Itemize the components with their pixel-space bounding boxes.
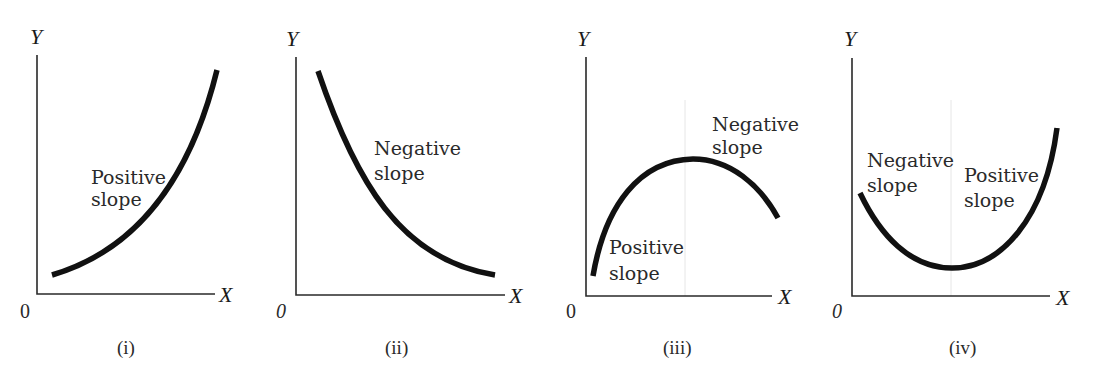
panel-caption: (i) — [117, 337, 135, 359]
annotation-negative-slope-line1: Negative — [867, 149, 954, 171]
annotation-positive-slope-line2: slope — [609, 262, 660, 284]
panel-iii: Y X 0 Negative slope Positive slope (iii… — [566, 26, 799, 359]
origin-label: 0 — [20, 300, 30, 322]
panel-caption: (ii) — [385, 337, 408, 359]
y-axis-label: Y — [286, 26, 301, 51]
annotation-positive-slope-line1: Positive — [964, 164, 1039, 186]
y-axis-label: Y — [844, 26, 859, 51]
origin-label: 0 — [832, 300, 842, 322]
annotation-negative-slope-line1: Negative — [374, 137, 461, 159]
panel-caption: (iii) — [663, 337, 692, 359]
annotation-negative-slope-line2: slope — [867, 174, 918, 196]
panel-iv: Y X 0 Negative slope Positive slope (iv) — [832, 26, 1071, 359]
panel-i: Y X 0 Positive slope (i) — [20, 24, 234, 359]
annotation-negative-slope-line1: Negative — [712, 113, 799, 135]
slope-diagram-figure: Y X 0 Positive slope (i) Y X 0 Negative … — [0, 0, 1104, 383]
x-axis-label: X — [777, 284, 793, 309]
x-axis-label: X — [218, 282, 234, 307]
x-axis-label: X — [508, 283, 524, 308]
annotation-negative-slope-line2: slope — [374, 162, 425, 184]
x-axis-label: X — [1055, 285, 1071, 310]
panel-ii: Y X 0 Negative slope (ii) — [276, 26, 524, 359]
panel-caption: (iv) — [949, 337, 976, 359]
y-axis-label: Y — [30, 24, 45, 49]
annotation-positive-slope-line2: slope — [91, 188, 142, 210]
annotation-positive-slope-line2: slope — [964, 189, 1015, 211]
annotation-positive-slope-line1: Positive — [91, 166, 166, 188]
annotation-negative-slope-line2: slope — [712, 136, 763, 158]
origin-label: 0 — [276, 300, 286, 322]
origin-label: 0 — [566, 300, 576, 322]
annotation-positive-slope-line1: Positive — [609, 236, 684, 258]
y-axis-label: Y — [577, 26, 592, 51]
